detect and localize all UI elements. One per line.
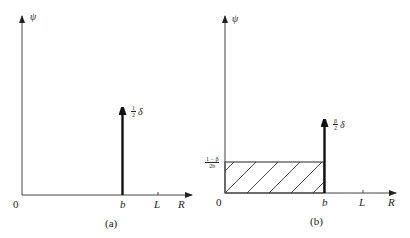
spike-label-fraction-b: β 2 — [333, 118, 338, 131]
caption-a: (a) — [105, 218, 117, 229]
y-tick-label-b: 1 − β 2b — [205, 156, 219, 169]
x-axis-label-b: R — [388, 197, 395, 208]
y-axis-label-a: ψ — [30, 12, 36, 22]
spike-label-delta-b: δ — [340, 120, 345, 130]
origin-label-a: 0 — [13, 199, 19, 210]
x-tick-L-a: L — [154, 199, 160, 210]
caption-b: (b) — [310, 216, 323, 227]
panel-a — [22, 16, 192, 195]
x-tick-b-a: b — [120, 199, 126, 210]
x-tick-b-b: b — [322, 197, 328, 208]
diagram-canvas — [0, 0, 410, 238]
x-tick-L-b: L — [359, 197, 365, 208]
origin-label-b: 0 — [216, 197, 222, 208]
hatched-region — [225, 162, 324, 193]
y-axis-label-b: ψ — [232, 14, 238, 24]
panel-b — [225, 16, 396, 193]
spike-label-fraction-a: 1 2 — [131, 105, 136, 118]
spike-label-delta-a: δ — [138, 107, 143, 117]
x-axis-label-a: R — [178, 199, 185, 210]
